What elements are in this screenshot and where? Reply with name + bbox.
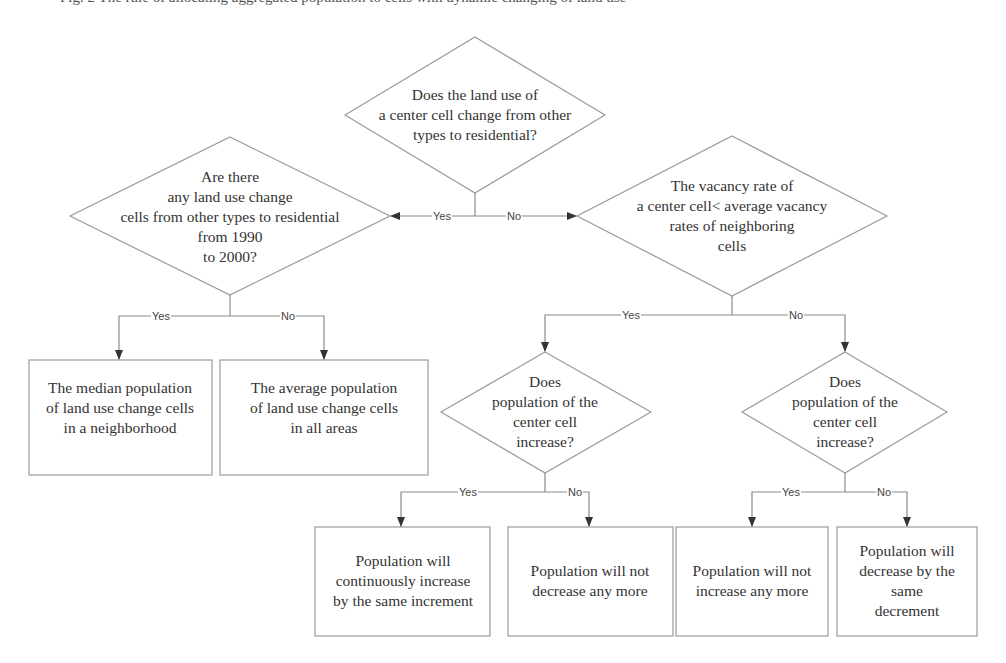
connector-left-no	[230, 316, 324, 359]
connector-left-yes	[119, 316, 230, 359]
result-average-population-text: The average population of land use chang…	[250, 378, 398, 438]
edge-label-top-no: No	[506, 210, 522, 222]
result-not-increase-text: Population will not increase any more	[693, 561, 812, 601]
edge-label-left-no: No	[280, 310, 296, 322]
decision-change-cells-text: Are there any land use change cells from…	[120, 167, 339, 267]
figure-caption: Fig. 2 The rule of allocating aggregated…	[60, 0, 626, 6]
edge-label-pr-no: No	[876, 486, 892, 498]
edge-label-pl-yes: Yes	[458, 486, 478, 498]
result-not-decrease-text: Population will not decrease any more	[531, 561, 650, 601]
result-continuous-increase-text: Population will continuously increase by…	[333, 551, 473, 611]
edge-label-top-yes: Yes	[432, 210, 452, 222]
edge-label-right-yes: Yes	[621, 309, 641, 321]
edge-label-pr-yes: Yes	[781, 486, 801, 498]
edge-label-pl-no: No	[567, 486, 583, 498]
decision-vacancy-rate-text: The vacancy rate of a center cell< avera…	[637, 176, 827, 256]
result-decrease-text: Population will decrease by the same dec…	[858, 541, 957, 621]
decision-population-right-text: Does population of the center cell incre…	[792, 372, 898, 452]
decision-landuse-change-text: Does the land use of a center cell chang…	[379, 85, 571, 145]
edge-label-left-yes: Yes	[151, 310, 171, 322]
result-median-population-text: The median population of land use change…	[46, 378, 194, 438]
edge-label-right-no: No	[788, 309, 804, 321]
decision-population-left-text: Does population of the center cell incre…	[492, 372, 598, 452]
